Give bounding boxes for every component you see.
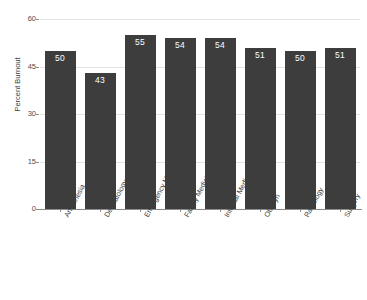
x-axis-tick-mark bbox=[140, 209, 141, 212]
y-axis-tick-mark bbox=[36, 67, 39, 68]
gridline bbox=[40, 19, 360, 20]
bar-chart: Percent Burnout 015304560 50435554545150… bbox=[0, 0, 367, 300]
bar-value-label: 51 bbox=[245, 51, 276, 60]
x-axis-tick-mark bbox=[60, 209, 61, 212]
bar: 50 bbox=[45, 51, 76, 209]
x-axis-tick-mark bbox=[300, 209, 301, 212]
y-axis-tick-mark bbox=[36, 19, 39, 20]
bar-value-label: 50 bbox=[45, 54, 76, 63]
bar: 54 bbox=[165, 38, 196, 209]
bar-value-label: 54 bbox=[205, 41, 236, 50]
y-axis-tick-mark bbox=[36, 114, 39, 115]
bar-value-label: 51 bbox=[325, 51, 356, 60]
x-axis-tick-mark bbox=[180, 209, 181, 212]
bar: 51 bbox=[245, 48, 276, 210]
x-axis-tick-mark bbox=[100, 209, 101, 212]
bar-value-label: 43 bbox=[85, 76, 116, 85]
bar: 43 bbox=[85, 73, 116, 209]
x-axis-tick-mark bbox=[340, 209, 341, 212]
y-axis-tick-label: 15 bbox=[10, 158, 36, 166]
bar-value-label: 54 bbox=[165, 41, 196, 50]
y-axis-ticks: 015304560 bbox=[0, 0, 36, 300]
y-axis-tick-label: 0 bbox=[10, 205, 36, 213]
bar-value-label: 55 bbox=[125, 38, 156, 47]
x-axis-tick-mark bbox=[260, 209, 261, 212]
y-axis-tick-label: 45 bbox=[10, 63, 36, 71]
y-axis-tick-label: 60 bbox=[10, 15, 36, 23]
bar: 51 bbox=[325, 48, 356, 210]
bar: 50 bbox=[285, 51, 316, 209]
y-axis-tick-mark bbox=[36, 162, 39, 163]
y-axis-tick-label: 30 bbox=[10, 110, 36, 118]
bar-value-label: 50 bbox=[285, 54, 316, 63]
x-axis-tick-mark bbox=[220, 209, 221, 212]
bar: 54 bbox=[205, 38, 236, 209]
